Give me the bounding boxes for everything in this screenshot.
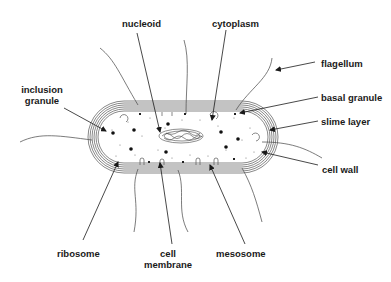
cell-illustration bbox=[0, 0, 391, 282]
leader-basal-granule bbox=[240, 97, 318, 113]
label-flagellum: flagellum bbox=[321, 58, 363, 69]
label-cell-membrane-line1: cell bbox=[140, 248, 196, 259]
nucleoid-shape bbox=[159, 129, 203, 143]
label-basal-granule: basal granule bbox=[321, 92, 382, 103]
flagellum-bottom-2 bbox=[178, 170, 188, 232]
cytoplasm-stipple bbox=[111, 117, 254, 158]
leader-mesosome bbox=[210, 165, 245, 244]
label-inclusion-granule-line1: inclusion bbox=[18, 84, 66, 95]
label-inclusion-granule-line2: granule bbox=[18, 95, 66, 106]
leader-cell-wall bbox=[262, 152, 318, 165]
flagellum-bottom-3 bbox=[242, 168, 262, 222]
leader-flagellum bbox=[276, 62, 315, 70]
flagellum-top-left bbox=[100, 48, 138, 105]
label-mesosome: mesosome bbox=[216, 248, 266, 259]
leader-ribosome bbox=[83, 162, 118, 240]
bacterial-cell-diagram: nucleoid cytoplasm flagellum inclusion g… bbox=[0, 0, 391, 282]
label-ribosome: ribosome bbox=[57, 248, 100, 259]
leader-nucleoid bbox=[137, 33, 160, 132]
leader-cytoplasm bbox=[212, 30, 226, 120]
label-cell-wall: cell wall bbox=[322, 164, 358, 175]
leader-cell-membrane bbox=[160, 163, 172, 244]
label-nucleoid: nucleoid bbox=[122, 18, 161, 29]
label-slime-layer: slime layer bbox=[321, 116, 370, 127]
basal-granules bbox=[139, 113, 236, 163]
label-cytoplasm: cytoplasm bbox=[212, 18, 259, 29]
leader-lines bbox=[64, 30, 318, 244]
flagellum-top-right bbox=[236, 58, 272, 110]
label-inclusion-granule: inclusion granule bbox=[18, 84, 66, 106]
leader-slime-layer bbox=[270, 121, 318, 130]
flagellum-left bbox=[20, 136, 92, 142]
flagella bbox=[20, 40, 322, 232]
flagellum-bottom-1 bbox=[134, 169, 138, 232]
label-cell-membrane-line2: membrane bbox=[140, 259, 196, 270]
label-cell-membrane: cell membrane bbox=[140, 248, 196, 270]
